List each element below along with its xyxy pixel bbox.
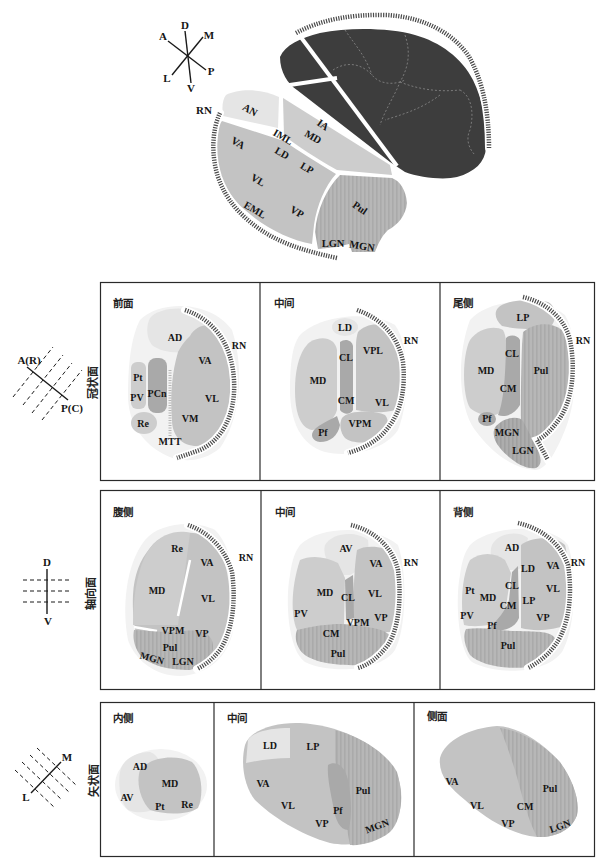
- label-cm: CM: [338, 395, 355, 406]
- label-va: VA: [369, 558, 383, 569]
- axial-panel-dorsal: 背侧 AD LD VA Pt CL MD VL CM LP PV VP Pf P…: [453, 506, 586, 671]
- label-vm: VM: [182, 413, 199, 424]
- compass-v: V: [187, 82, 195, 94]
- label-ld: LD: [338, 322, 352, 333]
- axial-panel-ventral: 腹侧 Re VA MD VL VPM VP Pul MGN LGN RN: [113, 506, 254, 676]
- label-pul: Pul: [501, 640, 516, 651]
- coronal-row: A(R) P(C) 冠状面 前面 AD VA Pt PCn VL PV VM R…: [13, 283, 595, 481]
- label-vl: VL: [368, 588, 382, 599]
- label-pv: PV: [294, 608, 308, 619]
- label-lp: LP: [307, 741, 320, 752]
- top-rn-label: RN: [196, 104, 212, 116]
- label-md: MD: [480, 592, 497, 603]
- orientation-compass-icon: D A M L P V: [159, 19, 215, 94]
- label-va: VA: [200, 557, 214, 568]
- sagittal-panel-lateral: 侧面 VA Pul VL CM VP LGN: [427, 710, 578, 837]
- coronal-icon-p-label: P(C): [61, 402, 83, 415]
- label-lp: LP: [517, 312, 530, 323]
- label-ad: AD: [168, 332, 182, 343]
- compass-a: A: [159, 30, 167, 42]
- coronal-panel-anterior: 前面 AD VA Pt PCn VL PV VM Re MTT RN: [113, 297, 247, 460]
- label-va: VA: [256, 778, 270, 789]
- compass-p: P: [208, 65, 215, 77]
- panel-title: 尾侧: [453, 297, 473, 309]
- label-rn: RN: [576, 335, 591, 346]
- label-cm: CM: [500, 600, 517, 611]
- compass-m: M: [204, 29, 215, 41]
- label-pf: Pf: [318, 427, 328, 438]
- label-cl: CL: [339, 352, 353, 363]
- sagittal-icon-l-label: L: [22, 791, 29, 803]
- label-vp: VP: [501, 818, 514, 829]
- label-va: VA: [546, 560, 560, 571]
- sagittal-orientation-icon: M L: [15, 748, 77, 808]
- label-rn: RN: [232, 340, 247, 351]
- label-vl: VL: [470, 800, 484, 811]
- compass-l: L: [163, 72, 170, 84]
- label-vpm: VPM: [162, 625, 185, 636]
- label-pcn: PCn: [148, 388, 167, 399]
- label-pt: Pt: [155, 801, 165, 812]
- panel-title: 背侧: [453, 506, 473, 518]
- coronal-orientation-icon: A(R) P(C): [13, 347, 83, 420]
- label-vpm: VPM: [347, 617, 370, 628]
- label-pf: Pf: [333, 805, 343, 816]
- label-mgn: MGN: [495, 427, 520, 438]
- label-lp: LP: [523, 595, 536, 606]
- thalamus-diagram-figure: D A M L P V RN AN IA IML: [0, 0, 611, 867]
- label-md: MD: [317, 587, 334, 598]
- top-label-lgn: LGN: [322, 238, 345, 249]
- coronal-icon-a-label: A(R): [17, 354, 41, 367]
- panel-title: 中间: [275, 506, 295, 518]
- sagittal-panel-middle: 中间 LD LP VA Pul VL Pf VP MGN: [227, 712, 401, 845]
- label-md: MD: [478, 365, 495, 376]
- axial-icon-v-label: V: [44, 615, 52, 627]
- sagittal-row: M L 矢状面 内侧 AD MD AV Pt Re 中间 LD LP: [15, 703, 595, 857]
- label-pf: Pf: [487, 620, 497, 631]
- label-vl: VL: [281, 800, 295, 811]
- panel-title: 内侧: [113, 712, 133, 724]
- panel-title: 腹侧: [113, 506, 133, 518]
- label-vl: VL: [375, 397, 389, 408]
- label-pul: Pul: [356, 785, 371, 796]
- label-re: Re: [181, 799, 193, 810]
- label-re: Re: [171, 543, 183, 554]
- panel-title: 中间: [227, 712, 247, 724]
- axial-row: D V 轴向面 腹侧 Re VA MD VL VPM VP Pul MGN LG…: [23, 491, 595, 690]
- label-cm: CM: [500, 383, 517, 394]
- label-re: Re: [137, 418, 149, 429]
- label-lgn: LGN: [512, 445, 534, 456]
- label-cl: CL: [341, 592, 355, 603]
- label-cm: CM: [323, 628, 340, 639]
- axial-orientation-icon: D V: [23, 556, 70, 627]
- label-ad: AD: [505, 542, 519, 553]
- label-pv: PV: [460, 610, 474, 621]
- panel-title: 中间: [274, 297, 294, 309]
- coronal-plane-label: 冠状面: [86, 366, 100, 399]
- label-pul: Pul: [331, 648, 346, 659]
- sagittal-icon-m-label: M: [62, 751, 73, 763]
- label-rn: RN: [404, 335, 419, 346]
- label-pv: PV: [130, 392, 144, 403]
- label-pf: Pf: [482, 413, 492, 424]
- label-pul: Pul: [163, 642, 178, 653]
- label-pt: Pt: [133, 372, 143, 383]
- axial-plane-label: 轴向面: [84, 577, 98, 610]
- label-vl: VL: [201, 593, 215, 604]
- label-vp: VP: [374, 612, 387, 623]
- label-md: MD: [162, 778, 179, 789]
- label-ld: LD: [521, 563, 535, 574]
- label-cm: CM: [517, 801, 534, 812]
- sagittal-panel-medial: 内侧 AD MD AV Pt Re: [113, 712, 207, 821]
- label-cl: CL: [505, 580, 519, 591]
- compass-d: D: [181, 19, 189, 31]
- label-lgn: LGN: [172, 656, 194, 667]
- label-vp: VP: [195, 628, 208, 639]
- label-va: VA: [445, 776, 459, 787]
- label-vpl: VPL: [363, 345, 383, 356]
- label-vp: VP: [536, 612, 549, 623]
- label-md: MD: [149, 585, 166, 596]
- figure-canvas: D A M L P V RN AN IA IML: [0, 0, 611, 867]
- lm-axis-line: [172, 37, 203, 75]
- coronal-panel-caudal: 尾侧 LP CL MD Pul CM Pf MGN LGN RN: [453, 297, 591, 470]
